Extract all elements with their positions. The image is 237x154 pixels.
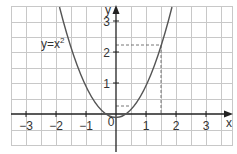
parabola-chart: −3 −2 −1 0 1 2 3 1 2 3 x y y=x2 <box>0 0 237 154</box>
dashed-guides <box>116 45 161 114</box>
curve-label: y=x2 <box>41 36 65 51</box>
y-tick-label: 1 <box>103 77 110 91</box>
x-tick-label: −3 <box>19 119 33 133</box>
x-tick-label: 2 <box>173 119 180 133</box>
x-axis-label: x <box>226 116 232 130</box>
grid <box>12 7 233 146</box>
curve-label-exponent: 2 <box>60 36 65 45</box>
x-tick-label: −1 <box>79 119 93 133</box>
y-axis-label: y <box>105 3 111 17</box>
x-tick-label: 3 <box>203 119 210 133</box>
curve-label-base: y=x <box>41 37 60 51</box>
x-tick-label: −2 <box>49 119 63 133</box>
x-tick-label: 1 <box>143 119 150 133</box>
origin-label: 0 <box>108 115 115 129</box>
y-tick-label: 3 <box>103 15 110 29</box>
y-tick-label: 2 <box>103 46 110 60</box>
